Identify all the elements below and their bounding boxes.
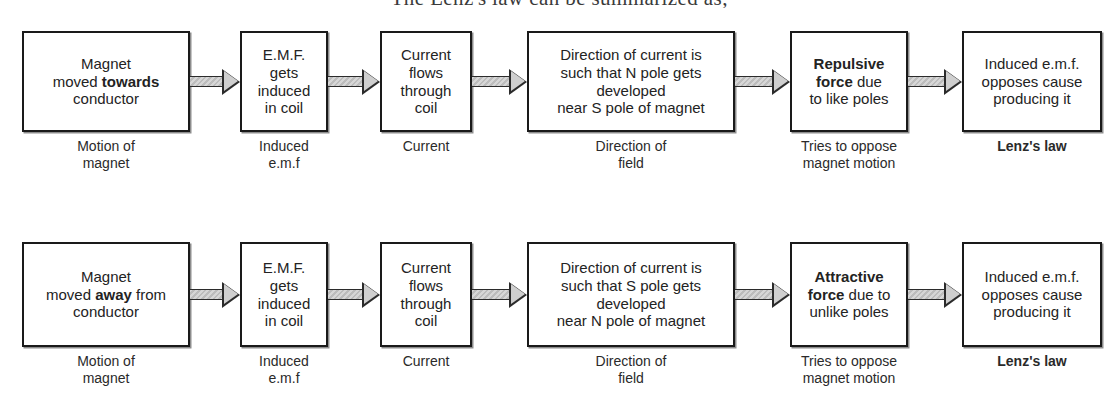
arrow-head-fill [946, 71, 960, 91]
arrow-head-fill [511, 284, 525, 304]
arrow-shaft [735, 289, 773, 300]
flow-box: Direction of current issuch that N pole … [527, 31, 735, 132]
flow-box: E.M.F.getsinducedin coil [240, 242, 328, 347]
arrow-shaft [328, 76, 363, 87]
flow-box-text: E.M.F.getsinducedin coil [256, 46, 313, 117]
arrow-shaft [328, 289, 363, 300]
flow-box: Attractiveforce due tounlike poles [790, 242, 908, 347]
arrow-head-fill [224, 71, 238, 91]
flow-box: Repulsiveforce dueto like poles [790, 31, 908, 132]
flow-box-caption: Tries to oppose magnet motion [790, 138, 908, 172]
flow-box: Induced e.m.f.opposes causeproducing it [962, 31, 1102, 132]
flow-box-text: Currentflowsthroughcoil [399, 46, 454, 117]
flow-box-caption: Direction of field [527, 353, 735, 387]
flow-arrow-icon [190, 282, 240, 308]
arrow-shaft [190, 289, 223, 300]
flow-box: Magnetmoved away fromconductor [22, 242, 190, 347]
flow-arrow-icon [908, 69, 962, 95]
flow-box-text: Currentflowsthroughcoil [399, 259, 454, 330]
flow-arrow-icon [735, 282, 790, 308]
flow-box-text: Direction of current issuch that S pole … [555, 259, 707, 330]
flow-box-caption: Lenz's law [962, 353, 1102, 370]
flow-arrow-icon [472, 69, 527, 95]
flow-box-caption: Lenz's law [962, 138, 1102, 155]
arrow-head-fill [364, 284, 378, 304]
flow-arrow-icon [735, 69, 790, 95]
lenz-law-flowchart-page: The Lenz's law can be summarized as; Mag… [0, 0, 1119, 416]
flow-arrow-icon [908, 282, 962, 308]
arrow-shaft [472, 289, 510, 300]
flow-box: Magnetmoved towardsconductor [22, 31, 190, 132]
flow-box-text: Magnetmoved away fromconductor [44, 268, 168, 321]
flow-box: Currentflowsthroughcoil [380, 242, 472, 347]
flow-arrow-icon [328, 69, 380, 95]
arrow-head-fill [511, 71, 525, 91]
flow-box-text: Attractiveforce due tounlike poles [806, 268, 893, 321]
arrow-head-fill [774, 284, 788, 304]
flow-box-text: Direction of current issuch that N pole … [555, 46, 707, 117]
arrow-shaft [472, 76, 510, 87]
flow-box: Direction of current issuch that S pole … [527, 242, 735, 347]
flow-box-text: Induced e.m.f.opposes causeproducing it [980, 268, 1085, 321]
arrow-shaft [190, 76, 223, 87]
flow-box-text: Magnetmoved towardsconductor [51, 55, 162, 108]
flow-box-caption: Motion of magnet [22, 138, 190, 172]
flow-box-caption: Motion of magnet [22, 353, 190, 387]
flow-box: E.M.F.getsinducedin coil [240, 31, 328, 132]
flow-box-caption: Current [380, 353, 472, 370]
flow-box: Currentflowsthroughcoil [380, 31, 472, 132]
flow-box-caption: Induced e.m.f [240, 353, 328, 387]
flow-box-text: Repulsiveforce dueto like poles [807, 55, 890, 108]
arrow-shaft [908, 289, 945, 300]
flow-box-caption: Current [380, 138, 472, 155]
flow-box: Induced e.m.f.opposes causeproducing it [962, 242, 1102, 347]
arrow-head-fill [946, 284, 960, 304]
flow-arrow-icon [190, 69, 240, 95]
arrow-shaft [908, 76, 945, 87]
flow-box-text: E.M.F.getsinducedin coil [256, 259, 313, 330]
flow-box-caption: Induced e.m.f [240, 138, 328, 172]
arrow-head-fill [364, 71, 378, 91]
flow-arrow-icon [328, 282, 380, 308]
arrow-shaft [735, 76, 773, 87]
arrow-head-fill [774, 71, 788, 91]
flow-arrow-icon [472, 282, 527, 308]
page-title: The Lenz's law can be summarized as; [0, 0, 1119, 8]
flow-box-caption: Tries to oppose magnet motion [790, 353, 908, 387]
arrow-head-fill [224, 284, 238, 304]
flow-box-text: Induced e.m.f.opposes causeproducing it [980, 55, 1085, 108]
flow-box-caption: Direction of field [527, 138, 735, 172]
